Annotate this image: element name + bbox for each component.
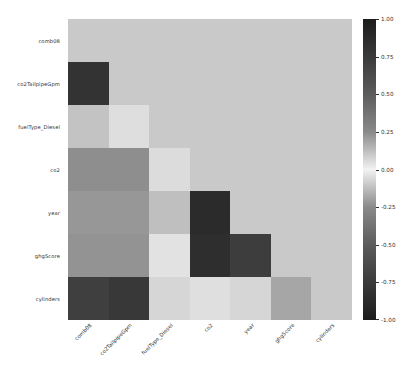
colorbar-tick-label-0.75: 0.75 (381, 54, 393, 60)
heatmap-cell (68, 105, 109, 148)
heatmap-cell (149, 277, 190, 320)
heatmap-cell (271, 234, 312, 277)
heatmap-cell (190, 62, 231, 105)
x-tick-label-cylinders: cylinders (315, 322, 336, 343)
y-tick-label-ghgScore: ghgScore (0, 234, 64, 277)
heatmap-cell (271, 19, 312, 62)
heatmap-cell (109, 148, 150, 191)
colorbar-tick-label-1.00: 1.00 (381, 16, 393, 22)
heatmap-cell (149, 19, 190, 62)
colorbar-tick-mark (376, 170, 379, 171)
y-tick-label-fuelType_Diesel: fuelType_Diesel (0, 105, 64, 148)
heatmap-cell (311, 19, 352, 62)
heatmap-cell (190, 19, 231, 62)
heatmap-cell (149, 191, 190, 234)
x-tick-slot: co2 (190, 320, 231, 376)
heatmap-cell (109, 19, 150, 62)
x-tick-slot: ghgScore (271, 320, 312, 376)
colorbar-tick-mark (376, 282, 379, 283)
heatmap-cell (68, 191, 109, 234)
heatmap-cell (68, 62, 109, 105)
heatmap-cell (271, 148, 312, 191)
heatmap-cell-grid (68, 19, 352, 320)
y-axis-tick-labels: comb08co2TailpipeGpmfuelType_Dieselco2ye… (0, 19, 64, 320)
colorbar-tick-mark (376, 207, 379, 208)
heatmap-cell (149, 148, 190, 191)
colorbar-tick-label--1.00: -1.00 (381, 317, 395, 323)
heatmap-cell (109, 234, 150, 277)
x-tick-label-ghgScore: ghgScore (273, 322, 295, 344)
heatmap-cell (68, 19, 109, 62)
heatmap-cell (68, 234, 109, 277)
heatmap-cell (311, 105, 352, 148)
colorbar-tick-label-0.00: 0.00 (381, 167, 393, 173)
colorbar-tick-label--0.50: -0.50 (381, 242, 395, 248)
heatmap-cell (149, 234, 190, 277)
x-tick-label-co2: co2 (203, 322, 214, 333)
y-tick-label-comb08: comb08 (0, 19, 64, 62)
colorbar-tick-mark (376, 94, 379, 95)
y-tick-label-co2TailpipeGpm: co2TailpipeGpm (0, 62, 64, 105)
heatmap-cell (190, 191, 231, 234)
colorbar-tick-mark (376, 245, 379, 246)
heatmap-cell (190, 234, 231, 277)
colorbar-tick-mark (376, 319, 379, 320)
heatmap-cell (230, 234, 271, 277)
heatmap-cell (311, 148, 352, 191)
colorbar-tick-label--0.25: -0.25 (381, 204, 395, 210)
heatmap-cell (109, 105, 150, 148)
colorbar-tick-label-0.25: 0.25 (381, 129, 393, 135)
colorbar-tick-mark (376, 57, 379, 58)
heatmap-cell (68, 277, 109, 320)
colorbar-tick-label-0.50: 0.50 (381, 91, 393, 97)
heatmap-cell (149, 62, 190, 105)
colorbar: 1.000.750.500.250.00-0.25-0.50-0.75-1.00 (363, 19, 411, 320)
heatmap-cell (271, 191, 312, 234)
heatmap-cell (311, 62, 352, 105)
colorbar-tick-mark (376, 19, 379, 20)
colorbar-gradient (363, 19, 376, 320)
heatmap-cell (190, 277, 231, 320)
colorbar-tick-label--0.75: -0.75 (381, 279, 395, 285)
heatmap-cell (109, 191, 150, 234)
heatmap-cell (230, 105, 271, 148)
heatmap-cell (311, 191, 352, 234)
x-tick-slot: fuelType_Diesel (149, 320, 190, 376)
heatmap-cell (149, 105, 190, 148)
heatmap-cell (190, 105, 231, 148)
heatmap-cell (271, 105, 312, 148)
x-tick-slot: cylinders (311, 320, 352, 376)
x-tick-label-year: year (242, 322, 255, 335)
heatmap-cell (311, 277, 352, 320)
y-tick-label-co2: co2 (0, 148, 64, 191)
x-axis-tick-labels: comb08co2TailpipeGpmfuelType_Dieselco2ye… (68, 320, 352, 376)
y-tick-label-cylinders: cylinders (0, 277, 64, 320)
heatmap-cell (68, 148, 109, 191)
heatmap-cell (311, 234, 352, 277)
heatmap-cell (230, 191, 271, 234)
heatmap-cell (271, 62, 312, 105)
heatmap-cell (230, 62, 271, 105)
heatmap-cell (109, 277, 150, 320)
heatmap-cell (230, 19, 271, 62)
y-tick-label-year: year (0, 191, 64, 234)
heatmap-plot-area (68, 19, 352, 320)
x-tick-slot: year (230, 320, 271, 376)
x-tick-label-comb08: comb08 (73, 322, 93, 342)
correlation-heatmap-figure: comb08co2TailpipeGpmfuelType_Dieselco2ye… (0, 0, 414, 381)
heatmap-cell (230, 148, 271, 191)
colorbar-tick-mark (376, 132, 379, 133)
heatmap-cell (109, 62, 150, 105)
heatmap-cell (271, 277, 312, 320)
heatmap-cell (190, 148, 231, 191)
heatmap-cell (230, 277, 271, 320)
